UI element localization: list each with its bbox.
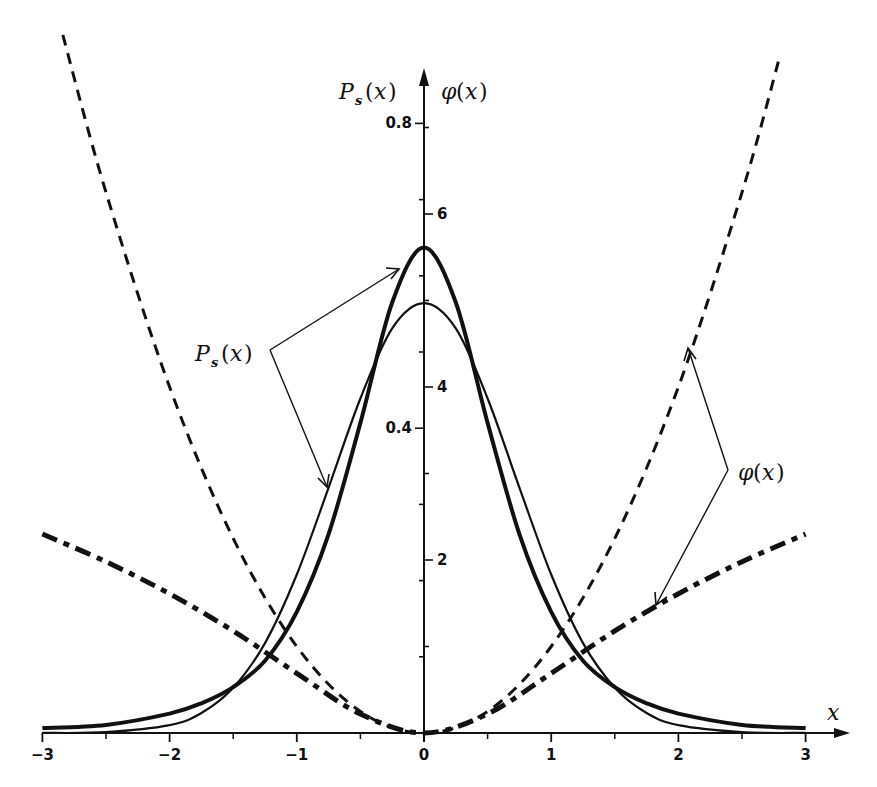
- x-tick-label: −3: [31, 746, 54, 764]
- svg-text:s: s: [211, 355, 219, 370]
- svg-text:(: (: [365, 79, 374, 104]
- svg-text:P: P: [338, 79, 355, 104]
- svg-text:s: s: [355, 93, 363, 108]
- x-tick-label: 2: [673, 746, 683, 764]
- x-tick-label: −1: [285, 746, 308, 764]
- y-left-title: P s ( x ): [338, 79, 397, 108]
- svg-text:): ): [479, 79, 488, 104]
- svg-text:x: x: [230, 341, 243, 366]
- y-axis-arrow-icon: [419, 68, 429, 86]
- x-tick-label: 3: [800, 746, 810, 764]
- x-tick-label: 1: [546, 746, 556, 764]
- svg-text:(: (: [456, 79, 465, 104]
- x-tick-label: −2: [158, 746, 181, 764]
- x-axis-label: x: [827, 700, 840, 725]
- y-right-title: φ ( x ): [441, 79, 488, 104]
- axis-ticks: −3−2−101230.40.8246: [31, 114, 811, 764]
- x-axis-arrow-icon: [834, 728, 850, 738]
- svg-text:): ): [244, 341, 253, 366]
- annotation-phi: φ ( x ): [655, 348, 785, 605]
- y-left-tick-label: 0.4: [385, 419, 412, 437]
- svg-text:x: x: [465, 79, 478, 104]
- svg-text:φ: φ: [738, 460, 754, 485]
- axes: [42, 68, 850, 742]
- svg-text:x: x: [374, 79, 387, 104]
- svg-text:): ): [776, 460, 785, 485]
- svg-text:): ): [388, 79, 397, 104]
- svg-text:(: (: [221, 341, 230, 366]
- phi-parabola-curve: [63, 35, 780, 733]
- svg-text:φ: φ: [441, 79, 457, 104]
- chart: −3−2−101230.40.8246 P s ( x ) φ ( x ) x …: [0, 0, 877, 787]
- y-right-tick-label: 6: [437, 205, 447, 223]
- svg-text:x: x: [762, 460, 775, 485]
- svg-text:(: (: [753, 460, 762, 485]
- x-tick-label: 0: [419, 746, 429, 764]
- y-right-tick-label: 4: [437, 378, 447, 396]
- y-right-tick-label: 2: [437, 551, 447, 569]
- y-left-tick-label: 0.8: [385, 114, 412, 132]
- svg-text:P: P: [194, 341, 211, 366]
